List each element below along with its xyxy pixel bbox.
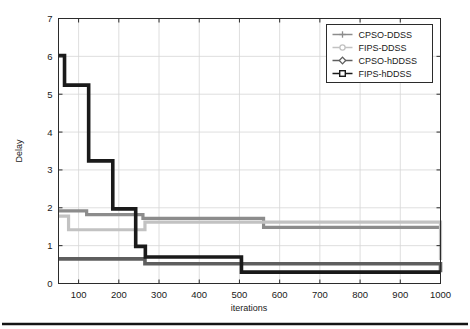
y-tick-label: 6 bbox=[47, 51, 52, 62]
legend-label-fips-ddss: FIPS-DDSS bbox=[359, 43, 407, 53]
x-tick-label: 500 bbox=[232, 289, 248, 300]
x-tick-label: 900 bbox=[392, 289, 408, 300]
legend-label-fips-hddss: FIPS-hDDSS bbox=[359, 69, 412, 79]
x-tick-label: 1000 bbox=[430, 289, 451, 300]
y-tick-label: 1 bbox=[47, 240, 52, 251]
delay-vs-iterations-line-chart: 01234567 1002003004005006007008009001000… bbox=[0, 0, 470, 329]
x-tick-label: 200 bbox=[111, 289, 127, 300]
y-tick-label: 2 bbox=[47, 202, 52, 213]
x-tick-label: 400 bbox=[191, 289, 207, 300]
legend-label-cpso-ddss: CPSO-DDSS bbox=[359, 30, 413, 40]
x-tick-label: 300 bbox=[151, 289, 167, 300]
y-tick-label: 5 bbox=[47, 89, 52, 100]
x-tick-label: 800 bbox=[352, 289, 368, 300]
x-tick-label: 600 bbox=[272, 289, 288, 300]
y-tick-label: 3 bbox=[47, 164, 52, 175]
y-axis-label: Delay bbox=[14, 139, 24, 163]
legend: CPSO-DDSSFIPS-DDSSCPSO-hDDSSFIPS-hDDSS bbox=[327, 25, 433, 83]
square-icon bbox=[340, 71, 346, 77]
x-tick-label: 700 bbox=[312, 289, 328, 300]
circle-icon bbox=[340, 45, 345, 50]
y-tick-label: 0 bbox=[47, 278, 52, 289]
y-tick-label: 7 bbox=[47, 13, 52, 24]
chart-figure: 01234567 1002003004005006007008009001000… bbox=[0, 0, 470, 329]
x-tick-label: 100 bbox=[71, 289, 87, 300]
x-axis-label: iterations bbox=[231, 303, 268, 313]
y-tick-label: 4 bbox=[47, 127, 52, 138]
legend-label-cpso-hddss: CPSO-hDDSS bbox=[359, 56, 418, 66]
